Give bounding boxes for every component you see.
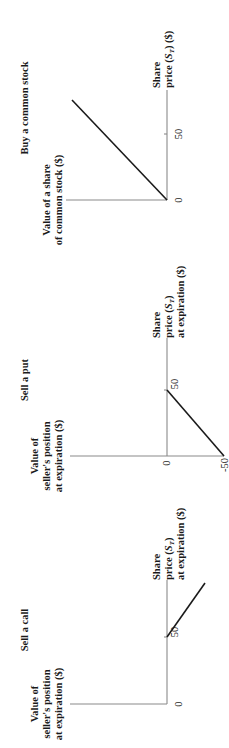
y-tick-label-neg50: -50 [219,458,229,472]
x-axis-label-line1: Share [151,312,162,338]
x-axis-label-line3: at expiration ($) [175,265,187,338]
payoff-line [72,100,167,200]
panel-buy-stock: Buy a common stock Value of a share of c… [19,30,184,245]
y-axis-label-line3: at expiration ($) [53,667,65,740]
x-axis-label-line3: at expiration ($) [175,507,187,580]
x-axis-label-line1: Share [151,554,162,580]
y-axis-label-line2: seller's position [41,421,52,490]
y-axis-label-line1: Value of [29,437,40,474]
panel-title: Sell a put [19,358,30,401]
rotated-figure: Sell a call Value of seller's position a… [0,0,229,748]
origin-tick-label: 0 [161,460,172,465]
x-axis-label-line1: Share [151,62,162,88]
y-axis-label-line1: Value of [29,685,40,722]
payoff-diagrams: Sell a call Value of seller's position a… [0,0,229,748]
payoff-line [167,390,224,456]
x-axis-label-line2: price (ST) ($) [163,30,176,88]
panel-title: Buy a common stock [19,61,30,154]
x-tick-label-50: 50 [173,129,184,140]
y-axis-label-line1: Value of a share [41,164,52,236]
x-tick-label-50: 50 [169,379,180,390]
panel-title: Sell a call [19,609,30,652]
y-axis-label-line2: of common stock ($) [53,154,65,245]
y-axis-label-line3: at expiration ($) [53,419,65,492]
panel-sell-put: Sell a put Value of seller's position at… [19,265,229,492]
y-axis-label-line2: seller's position [41,669,52,738]
origin-tick-label: 0 [173,197,184,202]
panel-sell-call: Sell a call Value of seller's position a… [19,507,205,740]
x-tick-label-50: 50 [169,627,180,638]
origin-tick-label: 0 [173,701,184,706]
